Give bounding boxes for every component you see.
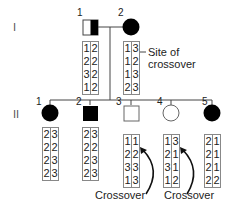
- allele: 2: [43, 141, 50, 154]
- allele: 3: [132, 161, 139, 174]
- allele: 2: [43, 128, 50, 141]
- allele: 2: [43, 167, 50, 180]
- allele: 3: [132, 81, 139, 94]
- allele: 3: [91, 154, 98, 167]
- allele: 3: [172, 135, 179, 148]
- allele: 1: [172, 161, 179, 174]
- allele: 1: [124, 68, 131, 81]
- allele: 3: [132, 68, 139, 81]
- allele: 3: [51, 128, 58, 141]
- gen2-3-symbol: [124, 106, 139, 121]
- haplotype-box-gen2-1: 2 2 2 2 3 2 3 3: [42, 127, 59, 181]
- allele: 3: [83, 68, 90, 81]
- crossover-site-label: Site of crossover: [148, 46, 196, 70]
- allele: 2: [83, 128, 90, 141]
- allele: 2: [83, 55, 90, 68]
- allele: 2: [205, 161, 212, 174]
- gen2-4-symbol: [163, 105, 179, 121]
- allele: 1: [172, 148, 179, 161]
- allele: 2: [164, 148, 171, 161]
- allele: 2: [91, 141, 98, 154]
- allele: 1: [124, 135, 131, 148]
- allele: 1: [83, 42, 90, 55]
- individual-number: 3: [116, 96, 122, 107]
- allele: 1: [213, 135, 220, 148]
- allele: 3: [51, 154, 58, 167]
- haplotype-box-gen2-3: 1 2 3 1 1 2 3 3: [123, 134, 140, 188]
- allele: 2: [172, 174, 179, 187]
- allele: 2: [91, 81, 98, 94]
- allele: 2: [91, 55, 98, 68]
- haplotype-box-gen2-4: 1 2 3 1 3 1 1 2: [163, 134, 180, 188]
- allele: 3: [132, 174, 139, 187]
- allele: 2: [213, 174, 220, 187]
- allele: 2: [91, 42, 98, 55]
- haplotype-box-gen1-2: 1 1 1 2 3 2 3 3: [123, 41, 140, 95]
- crossover-label-2: Crossover: [164, 189, 214, 201]
- gen1-female-symbol: [123, 19, 140, 36]
- allele: 3: [164, 161, 171, 174]
- allele: 3: [132, 42, 139, 55]
- allele: 3: [124, 161, 131, 174]
- allele: 2: [91, 68, 98, 81]
- individual-number: 1: [77, 7, 83, 18]
- allele: 2: [83, 141, 90, 154]
- gen2-5-symbol: [204, 105, 221, 122]
- haplotype-box-gen2-5: 2 2 2 2 1 1 1 2: [204, 134, 221, 188]
- allele: 1: [213, 161, 220, 174]
- allele: 1: [83, 81, 90, 94]
- gen2-2-symbol: [83, 106, 98, 121]
- annotation-line: crossover: [148, 58, 196, 70]
- individual-number: 2: [76, 96, 82, 107]
- allele: 2: [205, 148, 212, 161]
- individual-number: 4: [157, 96, 163, 107]
- allele: 1: [124, 55, 131, 68]
- haplotype-box-gen2-2: 2 2 2 2 3 2 3 3: [82, 127, 99, 181]
- generation-label-II: II: [13, 108, 19, 120]
- allele: 1: [213, 148, 220, 161]
- gen1-male-symbol: [83, 20, 98, 35]
- allele: 3: [51, 167, 58, 180]
- crossover-arrow-1: [143, 150, 153, 194]
- gen2-1-symbol: [42, 105, 59, 122]
- allele: 2: [83, 167, 90, 180]
- allele: 2: [205, 135, 212, 148]
- allele: 1: [132, 135, 139, 148]
- haplotype-box-gen1-1: 1 2 3 1 2 2 2 2: [82, 41, 99, 95]
- allele: 3: [91, 128, 98, 141]
- generation-label-I: I: [13, 21, 16, 33]
- individual-number: 1: [36, 96, 42, 107]
- allele: 2: [124, 81, 131, 94]
- annotation-line: Site of: [148, 46, 196, 58]
- allele: 2: [205, 174, 212, 187]
- allele: 2: [43, 154, 50, 167]
- allele: 2: [124, 148, 131, 161]
- allele: 2: [132, 55, 139, 68]
- allele: 2: [83, 154, 90, 167]
- allele: 1: [124, 42, 131, 55]
- allele: 3: [91, 167, 98, 180]
- crossover-label-1: Crossover: [95, 189, 145, 201]
- individual-number: 5: [202, 96, 208, 107]
- allele: 1: [164, 174, 171, 187]
- allele: 2: [132, 148, 139, 161]
- allele: 1: [124, 174, 131, 187]
- crossover-arrow-2: [183, 150, 194, 194]
- individual-number: 2: [118, 7, 124, 18]
- allele: 1: [164, 135, 171, 148]
- allele: 2: [51, 141, 58, 154]
